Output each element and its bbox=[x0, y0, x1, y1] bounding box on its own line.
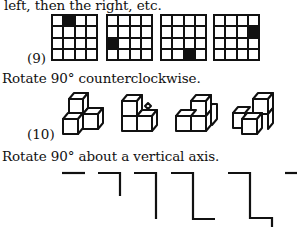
line-figures bbox=[0, 0, 297, 227]
line-figure-3 bbox=[134, 173, 156, 219]
line-figure-4 bbox=[171, 173, 215, 219]
line-figure-5 bbox=[228, 173, 272, 227]
line-figure-2 bbox=[98, 173, 120, 196]
